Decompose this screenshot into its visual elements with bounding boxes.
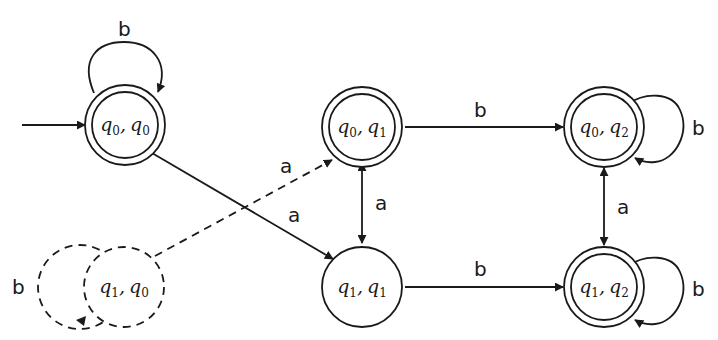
self-loop-q1q0-arrowhead — [76, 316, 86, 326]
label-loop-q1q2: b — [692, 277, 705, 301]
state-q1q1: q1,q1 — [322, 247, 402, 327]
state-q0q2: q0,q2 — [564, 87, 644, 167]
label-edge-q1q1-q1q2: b — [474, 257, 487, 281]
label-edge-q0q1-q1q1: a — [375, 191, 387, 215]
label-loop-q0q0: b — [118, 17, 131, 41]
label-loop-q1q0: b — [12, 275, 25, 299]
state-q1q2: q1,q2 — [564, 247, 644, 327]
label-loop-q0q2: b — [692, 116, 705, 140]
label-edge-q0q0-q1q1: a — [288, 203, 300, 227]
state-diagram: b a a b a b b a b b q0,q0 q0,q1 q0,q2 — [0, 0, 718, 340]
state-q0q1: q0,q1 — [322, 87, 402, 167]
state-q0q0: q0,q0 — [85, 85, 165, 165]
edge-q0q0-q1q1 — [152, 153, 333, 259]
label-edge-q0q2-q1q2: a — [617, 195, 629, 219]
label-edge-q1q0-q0q1: a — [280, 154, 292, 178]
label-edge-q0q1-q0q2: b — [474, 98, 487, 122]
state-q1q0: q1,q0 — [84, 247, 164, 327]
edge-q1q0-q0q1 — [155, 160, 332, 256]
